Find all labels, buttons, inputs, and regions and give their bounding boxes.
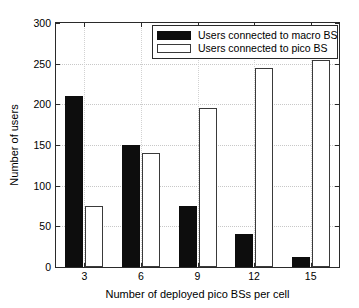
y-tick-label: 250 xyxy=(33,58,51,69)
x-tick-label: 15 xyxy=(305,271,317,282)
y-axis-title: Number of users xyxy=(8,65,20,225)
legend-item-pico: Users connected to pico BS xyxy=(157,42,333,55)
legend-swatch-macro-icon xyxy=(157,31,191,40)
bar-pico xyxy=(255,68,273,267)
y-tick-mark xyxy=(335,23,339,24)
legend-swatch-pico-icon xyxy=(157,44,191,53)
y-tick-mark xyxy=(335,64,339,65)
y-tick-mark xyxy=(56,226,60,227)
x-tick-label: 3 xyxy=(81,271,87,282)
bar-pico xyxy=(85,206,103,267)
chart-legend: Users connected to macro BS Users connec… xyxy=(152,25,338,59)
y-tick-mark xyxy=(335,226,339,227)
legend-label-pico: Users connected to pico BS xyxy=(198,43,328,54)
x-axis-title: Number of deployed pico BSs per cell xyxy=(55,288,340,300)
y-tick-label: 200 xyxy=(33,99,51,110)
y-tick-label: 100 xyxy=(33,180,51,191)
y-tick-mark xyxy=(335,267,339,268)
x-tick-label: 12 xyxy=(248,271,260,282)
x-tick-label: 6 xyxy=(138,271,144,282)
legend-label-macro: Users connected to macro BS xyxy=(198,30,337,41)
bar-macro xyxy=(235,234,253,267)
y-tick-mark xyxy=(335,186,339,187)
y-tick-mark xyxy=(56,104,60,105)
x-tick-label: 9 xyxy=(195,271,201,282)
y-tick-label: 50 xyxy=(39,221,51,232)
y-tick-mark xyxy=(56,64,60,65)
y-tick-mark xyxy=(335,145,339,146)
bar-macro xyxy=(65,96,83,267)
bar-macro xyxy=(179,206,197,267)
y-tick-mark xyxy=(56,145,60,146)
y-tick-mark xyxy=(56,267,60,268)
y-tick-mark xyxy=(56,186,60,187)
legend-item-macro: Users connected to macro BS xyxy=(157,29,333,42)
y-tick-label: 150 xyxy=(33,140,51,151)
bar-pico xyxy=(142,153,160,267)
bar-pico xyxy=(312,60,330,267)
y-tick-mark xyxy=(56,23,60,24)
x-tick-mark xyxy=(141,23,142,27)
bar-pico xyxy=(199,108,217,267)
y-tick-mark xyxy=(335,104,339,105)
bar-macro xyxy=(122,145,140,267)
y-tick-label: 300 xyxy=(33,18,51,29)
x-tick-mark xyxy=(84,23,85,27)
bar-macro xyxy=(292,257,310,267)
bar-chart-figure: 0501001502002503003691215 Number of user… xyxy=(0,0,359,308)
y-tick-label: 0 xyxy=(45,262,51,273)
